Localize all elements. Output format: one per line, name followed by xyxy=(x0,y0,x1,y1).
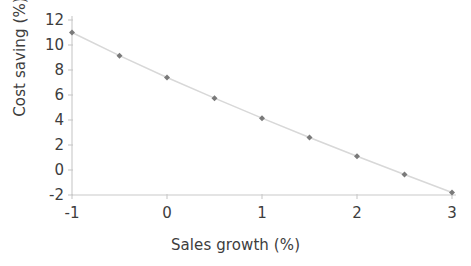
data-point-marker xyxy=(259,115,265,121)
plot-area xyxy=(0,0,471,266)
data-point-marker xyxy=(69,30,75,36)
data-point-marker xyxy=(354,153,360,159)
data-point-marker xyxy=(164,75,170,81)
data-point-marker xyxy=(117,53,123,59)
series-line xyxy=(72,33,452,193)
data-series xyxy=(69,30,455,196)
chart-container: Cost saving (%) Sales growth (%) -202468… xyxy=(0,0,471,266)
data-point-marker xyxy=(402,171,408,177)
data-point-marker xyxy=(307,135,313,141)
data-point-marker xyxy=(212,95,218,101)
